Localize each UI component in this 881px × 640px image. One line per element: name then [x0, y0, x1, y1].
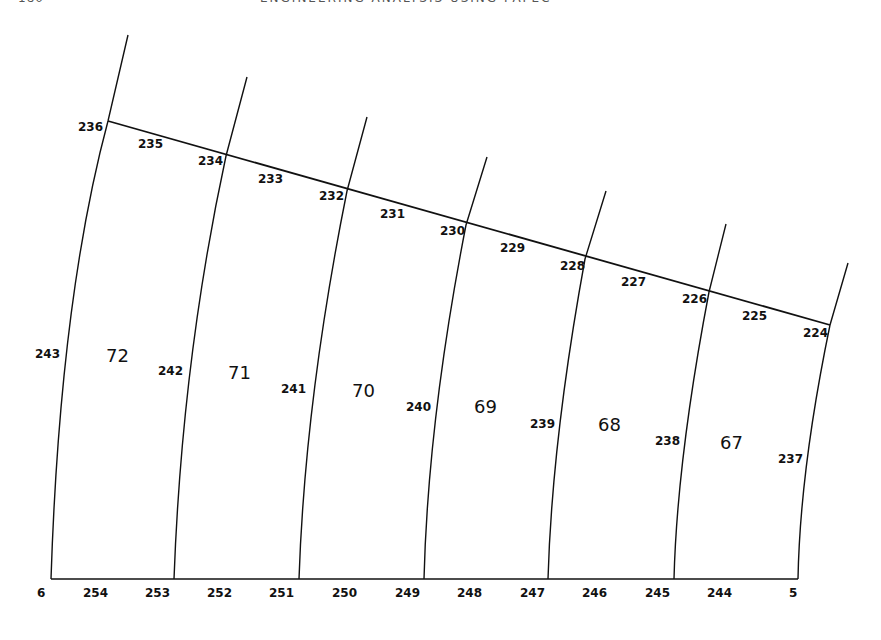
- node-label: 231: [380, 207, 405, 221]
- node-label: 227: [621, 275, 646, 289]
- node-label: 245: [645, 586, 670, 600]
- mesh-diagram: 236 235 234 233 232 231 230 229 228 227 …: [0, 0, 881, 640]
- node-label: 239: [530, 417, 555, 431]
- radial-line-5: [548, 191, 606, 579]
- node-label: 234: [198, 154, 223, 168]
- node-label: 225: [742, 309, 767, 323]
- radial-line-7: [798, 263, 848, 579]
- node-label: 253: [145, 586, 170, 600]
- node-label: 6: [37, 586, 45, 600]
- element-labels: 72 71 70 69 68 67: [106, 345, 743, 453]
- element-label: 72: [106, 345, 129, 366]
- node-label: 237: [778, 452, 803, 466]
- node-label: 242: [158, 364, 183, 378]
- node-label: 247: [520, 586, 545, 600]
- node-label: 226: [682, 292, 707, 306]
- node-label: 236: [78, 120, 103, 134]
- radial-line-6: [674, 224, 726, 579]
- element-label: 71: [228, 362, 251, 383]
- node-label: 238: [655, 434, 680, 448]
- top-edge: [108, 121, 830, 325]
- element-label: 67: [720, 432, 743, 453]
- node-label: 233: [258, 172, 283, 186]
- node-label: 252: [207, 586, 232, 600]
- node-label: 235: [138, 137, 163, 151]
- radial-line-1: [51, 35, 128, 579]
- bottom-node-labels: 6 254 253 252 251 250 249 248 247 246 24…: [37, 586, 797, 600]
- radial-line-3: [299, 117, 367, 579]
- node-label: 254: [83, 586, 108, 600]
- node-label: 241: [281, 382, 306, 396]
- node-label: 228: [560, 259, 585, 273]
- radial-line-2: [174, 77, 247, 579]
- element-label: 68: [598, 414, 621, 435]
- side-node-labels: 243 242 241 240 239 238 237: [35, 347, 803, 466]
- node-label: 224: [803, 326, 828, 340]
- node-label: 244: [707, 586, 732, 600]
- node-label: 232: [319, 189, 344, 203]
- element-label: 70: [352, 380, 375, 401]
- node-label: 243: [35, 347, 60, 361]
- node-label: 5: [789, 586, 797, 600]
- node-label: 246: [582, 586, 607, 600]
- radial-line-4: [424, 157, 487, 579]
- node-label: 230: [440, 224, 465, 238]
- mesh-lines: [51, 35, 848, 579]
- node-label: 250: [332, 586, 357, 600]
- node-label: 249: [395, 586, 420, 600]
- node-label: 248: [457, 586, 482, 600]
- node-label: 251: [269, 586, 294, 600]
- top-node-labels: 236 235 234 233 232 231 230 229 228 227 …: [78, 120, 828, 340]
- node-label: 240: [406, 400, 431, 414]
- node-label: 229: [500, 241, 525, 255]
- element-label: 69: [474, 396, 497, 417]
